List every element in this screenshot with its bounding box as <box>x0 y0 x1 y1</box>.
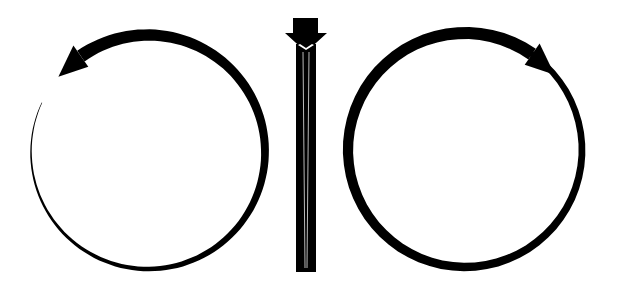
rotation-diagram <box>0 0 620 289</box>
diagram-canvas <box>0 0 620 289</box>
center-down-arrow <box>285 18 327 272</box>
left-circular-arrow-counterclockwise <box>30 29 269 271</box>
right-circular-arrow-clockwise <box>343 27 585 271</box>
